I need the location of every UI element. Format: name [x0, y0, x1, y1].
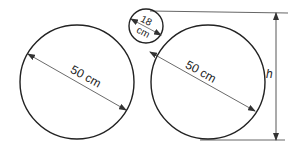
- diameter-label-right: 50 cm: [183, 58, 218, 86]
- diameter-arrow-right: [150, 52, 255, 111]
- top-guide-line: [150, 11, 288, 13]
- circles-diagram: h 50 cm 50 cm 18 cm: [0, 0, 300, 150]
- height-label: h: [266, 67, 273, 81]
- diameter-label-left: 50 cm: [68, 62, 103, 90]
